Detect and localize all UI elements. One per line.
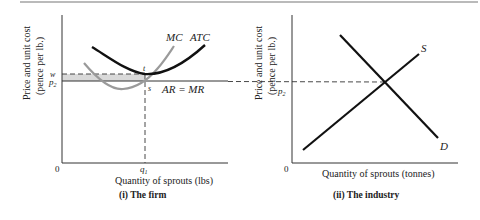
supply-label: S — [421, 42, 427, 54]
atc-curve — [92, 45, 205, 74]
industry-p2-tick-label: p2 — [277, 86, 286, 97]
ar-mr-label: AR = MR — [161, 83, 205, 95]
firm-y-axis-label: Price and unit cost (pence per lb.) — [21, 26, 46, 100]
industry-y-label-line1: Price and unit cost — [253, 26, 264, 100]
p2-connector-dashed-line — [228, 82, 386, 83]
diagram-canvas: MC ATC AR = MR t s w p2 0 q1 Quantity of… — [0, 0, 480, 220]
industry-y-axis-label: Price and unit cost (pence per lb.) — [253, 26, 278, 100]
mc-label: MC — [165, 31, 183, 43]
demand-label: D — [439, 140, 448, 152]
point-s-label: s — [148, 84, 151, 93]
firm-caption: (i) The firm — [119, 190, 166, 201]
firm-y-label-line2: (pence per lb.) — [34, 37, 46, 95]
atc-label: ATC — [189, 31, 210, 43]
industry-x-axis-label: Quantity of sprouts (tonnes) — [322, 168, 435, 180]
point-t-label: t — [143, 64, 146, 73]
firm-x-axis-label: Quantity of sprouts (lbs) — [115, 175, 213, 187]
q1-tick-label: q1 — [140, 164, 148, 175]
panel-industry: S D p2 0 Quantity of sprouts (tonnes) (i… — [253, 15, 458, 201]
mc-curve — [84, 46, 174, 89]
firm-origin-label: 0 — [55, 164, 60, 174]
industry-y-label-line2: (pence per lb.) — [266, 37, 278, 95]
loss-area — [62, 74, 145, 81]
supply-curve — [303, 54, 419, 150]
industry-caption: (ii) The industry — [333, 190, 400, 201]
industry-origin-label: 0 — [284, 164, 289, 174]
firm-y-label-line1: Price and unit cost — [21, 26, 32, 100]
